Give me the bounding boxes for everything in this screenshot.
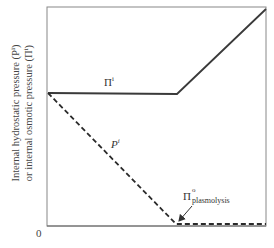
- hydrostatic-pressure-curve: [48, 93, 266, 224]
- plasmolysis-pi-symbol: Π: [183, 190, 191, 202]
- p-superscript: i: [118, 137, 120, 145]
- plasmolysis-arrow: [179, 206, 192, 221]
- p-symbol: P: [111, 138, 118, 150]
- diagram-plot: [0, 0, 274, 248]
- pi-symbol: Π: [104, 76, 112, 88]
- plasmolysis-label: Πoplasmolysis: [183, 190, 251, 204]
- plasmolysis-superscript: o: [192, 186, 196, 194]
- pi-curve-label: Πi: [104, 75, 114, 88]
- pi-superscript: i: [112, 75, 114, 83]
- p-curve-label: Pi: [111, 137, 120, 150]
- osmotic-pressure-curve: [48, 9, 266, 94]
- plasmolysis-subscript: plasmolysis: [192, 196, 230, 205]
